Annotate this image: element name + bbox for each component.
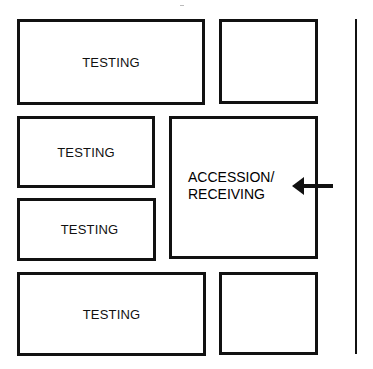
room-testing-3: TESTING xyxy=(17,198,156,261)
room-label: TESTING xyxy=(57,145,115,160)
room-label: TESTING xyxy=(82,55,140,70)
accession-label-line1: ACCESSION/ xyxy=(188,169,274,186)
room-testing-2: TESTING xyxy=(17,116,155,188)
room-label: TESTING xyxy=(83,307,141,322)
accession-label-line2: RECEIVING xyxy=(188,186,274,203)
room-empty-1 xyxy=(219,19,318,104)
room-label: TESTING xyxy=(61,222,119,237)
room-testing-4: TESTING xyxy=(17,272,206,356)
room-testing-1: TESTING xyxy=(17,19,205,105)
accession-label: ACCESSION/ RECEIVING xyxy=(188,169,274,203)
room-empty-2 xyxy=(219,272,318,355)
arrow-left-icon xyxy=(288,176,334,196)
scan-mark xyxy=(180,5,184,6)
wall-line xyxy=(355,19,357,354)
